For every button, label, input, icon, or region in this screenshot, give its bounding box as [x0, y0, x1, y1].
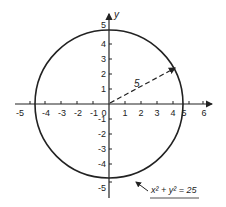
circle-diagram: -5 -4 -3 -2 -1 0 1 2 3 4 5 6 1 2 3 4 5 -…	[0, 0, 226, 207]
x-tick-label: 3	[154, 108, 159, 118]
radius-label: 5	[134, 78, 140, 89]
equation-label: x² + y² = 25	[150, 185, 198, 195]
y-tick-label: 2	[101, 69, 106, 79]
x-tick-label: -1	[90, 108, 98, 118]
y-tick-label: -3	[98, 144, 106, 154]
y-axis-label: y	[113, 9, 120, 20]
y-tick-label: -1	[98, 114, 106, 124]
y-tick-label: 4	[101, 39, 106, 49]
x-tick-label: 6	[201, 108, 206, 118]
y-tick-label: 1	[101, 84, 106, 94]
x-tick-label: 5	[181, 108, 186, 118]
x-tick-label: 1	[122, 108, 127, 118]
y-tick-label: -5	[98, 183, 106, 193]
x-tick-label: -5	[16, 108, 24, 118]
y-tick-label: 3	[101, 54, 106, 64]
x-tick-label: 4	[170, 108, 175, 118]
equation-pointer	[136, 182, 148, 191]
y-tick-label: 5	[101, 20, 106, 30]
x-tick-label: 2	[138, 108, 143, 118]
y-tick-label: -4	[98, 159, 106, 169]
x-tick-label: -4	[42, 108, 50, 118]
radius-arrow	[110, 68, 175, 103]
x-tick-label: -2	[74, 108, 82, 118]
y-tick-label: -2	[98, 129, 106, 139]
x-tick-label: -3	[58, 108, 66, 118]
